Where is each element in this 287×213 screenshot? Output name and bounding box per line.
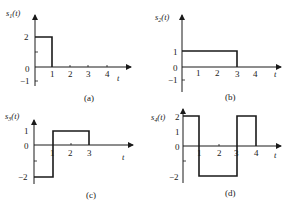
ytick-label: 0 — [24, 141, 29, 151]
plot-c: s3(t) 1 0 −2 1 2 3 t (c) — [5, 111, 133, 200]
xtick-label: 2 — [217, 148, 222, 158]
ytick-label: 0 — [175, 142, 180, 152]
xtick-label: 4 — [254, 148, 259, 158]
xtick-label: 2 — [68, 148, 73, 158]
ytick-label: 1 — [24, 126, 29, 136]
xtick-label: 1 — [50, 148, 55, 158]
xlabel: t — [117, 73, 120, 83]
ylabel-s4: s4(t) — [151, 112, 166, 123]
signal-s3 — [34, 131, 89, 177]
ytick-label: 2 — [24, 32, 29, 42]
signal-s2 — [182, 51, 237, 67]
xtick-label: 1 — [197, 148, 202, 158]
ytick-label: −2 — [169, 172, 179, 182]
xtick-label: 3 — [86, 69, 91, 79]
caption-b: (b) — [225, 92, 236, 102]
xtick-label: 3 — [235, 69, 240, 79]
ytick-label: −1 — [168, 75, 178, 85]
ylabel-s3: s3(t) — [5, 111, 20, 122]
xtick-label: 1 — [196, 68, 201, 78]
plot-d: s4(t) 2 1 0 −2 1 2 3 4 t (d) — [151, 109, 281, 198]
caption-d: (d) — [225, 188, 236, 198]
xtick-label: 3 — [87, 148, 92, 158]
xtick-label: 4 — [253, 69, 258, 79]
xlabel: t — [274, 69, 277, 79]
ytick-label: 1 — [173, 47, 178, 57]
ytick-label: −1 — [20, 76, 30, 86]
xtick-label: 1 — [50, 69, 55, 79]
ytick-label: 1 — [175, 127, 180, 137]
xlabel: t — [122, 152, 125, 162]
ylabel-s2: s2(t) — [155, 12, 170, 23]
ytick-label: 2 — [175, 112, 180, 122]
ytick-label: 0 — [173, 63, 178, 73]
caption-c: (c) — [86, 190, 96, 200]
signal-diagram: s1(t) 2 0 −1 1 2 3 4 t (a) s2(t) 1 0 −1 … — [0, 0, 287, 213]
xtick-label: 2 — [68, 69, 73, 79]
plot-b: s2(t) 1 0 −1 1 2 3 4 t (b) — [155, 12, 281, 102]
ytick-label: 0 — [25, 64, 30, 74]
xlabel: t — [274, 150, 277, 160]
plot-a: s1(t) 2 0 −1 1 2 3 4 t (a) — [6, 8, 131, 103]
xtick-label: 2 — [215, 68, 220, 78]
ylabel-s1: s1(t) — [6, 8, 21, 19]
xtick-label: 4 — [105, 69, 110, 79]
ytick-label: −2 — [18, 172, 28, 182]
xtick-label: 3 — [234, 148, 239, 158]
caption-a: (a) — [84, 93, 94, 103]
